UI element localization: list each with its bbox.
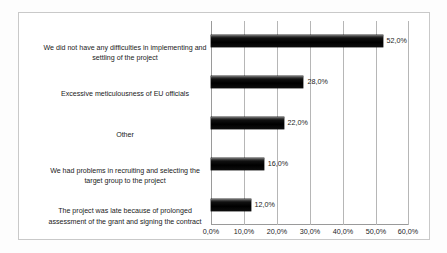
bar-value-label: 52,0% — [387, 38, 407, 45]
category-label-text: Excessive meticulousness of EU officials — [41, 89, 209, 99]
bar[interactable]: 12,0% — [211, 199, 251, 211]
category-label-text: We did not have any difficulties in impl… — [41, 43, 209, 64]
bar-row: 16,0% — [211, 143, 409, 184]
xtick-label: 10,0% — [234, 228, 254, 235]
bar-value-label: 16,0% — [268, 160, 288, 167]
category-label: Other — [41, 115, 209, 156]
bar[interactable]: 22,0% — [211, 117, 284, 129]
category-label: The project was late because of prolonge… — [41, 196, 209, 237]
category-label-text: The project was late because of prolonge… — [41, 206, 209, 227]
bar-row: 12,0% — [211, 184, 409, 225]
category-label-text: We had problems in recruiting and select… — [41, 166, 209, 187]
bar-row: 28,0% — [211, 62, 409, 103]
bar[interactable]: 52,0% — [211, 35, 383, 47]
xtick-label: 40,0% — [333, 228, 353, 235]
bar-row: 52,0% — [211, 21, 409, 62]
bar-series: 52,0% 28,0% 22,0% 16,0% — [211, 21, 409, 225]
bar[interactable]: 28,0% — [211, 76, 303, 88]
chart-screenshot: We did not have any difficulties in impl… — [0, 0, 447, 253]
xtick-label: 60,0% — [398, 228, 418, 235]
bar-value-label: 12,0% — [255, 201, 275, 208]
xtick-label: 30,0% — [300, 228, 320, 235]
category-label: We had problems in recruiting and select… — [41, 155, 209, 196]
category-label: Excessive meticulousness of EU officials — [41, 74, 209, 115]
xtick-label: 0,0% — [203, 228, 219, 235]
chart-frame: We did not have any difficulties in impl… — [18, 12, 430, 240]
xtick-label: 20,0% — [267, 228, 287, 235]
bar-value-label: 22,0% — [288, 119, 308, 126]
bar-value-label: 28,0% — [307, 79, 327, 86]
category-label-text: Other — [41, 130, 209, 140]
plot-area: 52,0% 28,0% 22,0% 16,0% — [211, 21, 409, 225]
bar[interactable]: 16,0% — [211, 158, 264, 170]
category-label: We did not have any difficulties in impl… — [41, 33, 209, 74]
xtick-label: 50,0% — [366, 228, 386, 235]
bar-row: 22,0% — [211, 103, 409, 144]
category-axis-labels: We did not have any difficulties in impl… — [41, 33, 209, 237]
value-axis-tick-labels: 0,0% 10,0% 20,0% 30,0% 40,0% 50,0% 60,0% — [211, 228, 409, 242]
